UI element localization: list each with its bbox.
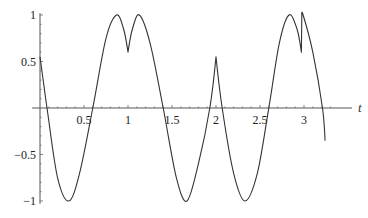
- x-axis-label: t: [358, 100, 362, 115]
- y-tick-label: 1: [30, 8, 36, 22]
- y-tick-label: 0.5: [21, 55, 36, 69]
- x-tick-labels: 0.511.522.53: [77, 113, 308, 127]
- y-tick-label: −0.5: [14, 148, 36, 162]
- x-axis: 0.511.522.53 t: [32, 100, 362, 127]
- x-tick-label: 1: [125, 113, 131, 127]
- x-tick-label: 3: [301, 113, 307, 127]
- data-curve: [40, 12, 325, 201]
- x-tick-label: 2.5: [253, 113, 268, 127]
- line-chart: 10.5−0.5−1 0.511.522.53 t: [0, 0, 368, 218]
- x-tick-label: 2: [213, 113, 219, 127]
- y-tick-label: −1: [23, 194, 36, 208]
